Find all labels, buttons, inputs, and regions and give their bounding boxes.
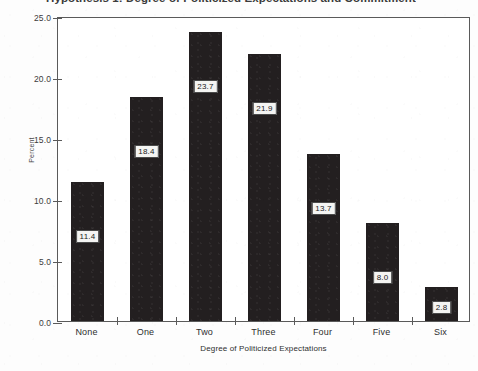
- x-axis-category-label: Two: [196, 327, 213, 337]
- y-axis-tick-inner: [58, 79, 62, 80]
- bar: [307, 154, 340, 321]
- x-axis-tick: [235, 321, 236, 325]
- bar: [71, 182, 104, 321]
- bar-value-label: 23.7: [193, 80, 217, 93]
- x-axis-category-label: One: [137, 327, 154, 337]
- x-axis-category-label: Six: [434, 327, 447, 337]
- y-axis-tick-label: 0.0: [39, 318, 51, 328]
- x-axis-tick: [176, 321, 177, 325]
- y-axis-title: Percent: [28, 115, 35, 185]
- y-axis-tick-inner: [58, 140, 62, 141]
- x-axis-tick-inner: [176, 317, 177, 321]
- y-axis-tick-label: 15.0: [34, 135, 51, 145]
- bar-value-label: 11.4: [76, 230, 100, 243]
- y-axis-tick-label: 10.0: [34, 196, 51, 206]
- x-axis-category-label: None: [75, 327, 97, 337]
- bar-value-label: 18.4: [134, 145, 158, 158]
- x-axis-tick-inner: [294, 317, 295, 321]
- x-axis-title: Degree of Politicized Expectations: [57, 344, 470, 353]
- bar-value-label: 21.9: [252, 102, 276, 115]
- x-axis-tick-inner: [117, 317, 118, 321]
- y-axis-tick-inner: [58, 201, 62, 202]
- x-axis-tick: [412, 321, 413, 325]
- x-axis-tick-inner: [235, 317, 236, 321]
- x-axis-tick: [353, 321, 354, 325]
- bar-value-label: 2.8: [432, 301, 452, 314]
- x-axis-category-label: Four: [313, 327, 332, 337]
- bar: [130, 97, 163, 321]
- y-axis-tick-label: 5.0: [39, 257, 51, 267]
- bar-value-label: 13.7: [311, 202, 335, 215]
- chart-title-text: Hypothesis 1: Degree of Politicized Expe…: [46, 0, 466, 4]
- y-axis-tick-label: 25.0: [34, 13, 51, 23]
- y-axis-tick-inner: [58, 323, 62, 324]
- bar-value-label: 8.0: [373, 271, 393, 284]
- chart-page: Hypothesis 1: Degree of Politicized Expe…: [0, 0, 478, 371]
- x-axis-tick: [294, 321, 295, 325]
- x-axis-tick: [117, 321, 118, 325]
- bar: [189, 32, 222, 321]
- x-axis-tick-inner: [353, 317, 354, 321]
- bar: [248, 54, 281, 321]
- x-axis-category-label: Three: [251, 327, 275, 337]
- chart-title-clipped: Hypothesis 1: Degree of Politicized Expe…: [0, 0, 478, 8]
- y-axis-tick-inner: [58, 262, 62, 263]
- plot-area: 0.05.010.015.020.025.011.418.423.721.913…: [57, 17, 470, 322]
- x-axis-category-label: Five: [373, 327, 391, 337]
- y-axis-tick-label: 20.0: [34, 74, 51, 84]
- x-axis-tick-inner: [412, 317, 413, 321]
- y-axis-tick-inner: [58, 18, 62, 19]
